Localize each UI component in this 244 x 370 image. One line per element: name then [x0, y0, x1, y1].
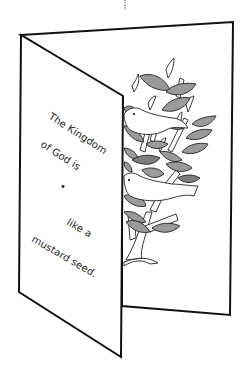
folded-card-diagram: The Kingdom of God is • like a mustard s…	[0, 0, 244, 370]
blank-marker: •	[60, 181, 66, 192]
